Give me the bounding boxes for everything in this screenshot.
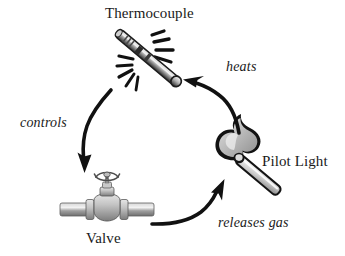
curved-arrow-up-left-icon (183, 76, 239, 133)
cycle-diagram: Thermocouple Pilot Light Valve controls … (0, 0, 345, 256)
thermocouple-probe-icon (112, 26, 184, 90)
edge-label-controls: controls (20, 116, 67, 130)
gate-valve-icon (60, 172, 154, 221)
node-label-thermocouple: Thermocouple (105, 6, 194, 21)
curved-arrow-up-right-icon (152, 179, 225, 224)
curved-arrow-down-icon (78, 90, 112, 173)
node-label-valve: Valve (86, 231, 121, 246)
edge-label-releases-gas: releases gas (218, 216, 289, 230)
node-label-pilot-light: Pilot Light (262, 154, 328, 169)
edge-label-heats: heats (226, 60, 257, 74)
